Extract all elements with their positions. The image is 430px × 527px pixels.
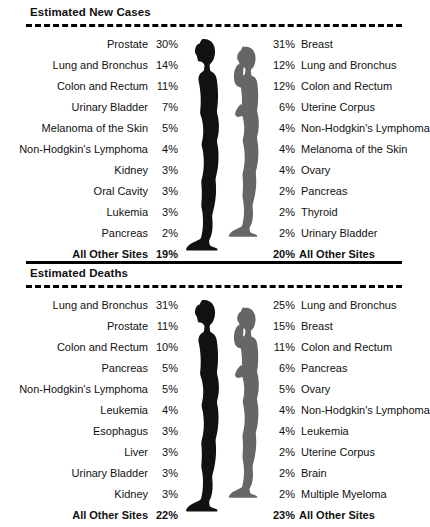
- male-site-label: Urinary Bladder: [0, 97, 148, 118]
- table-row-total: All Other Sites 22% 23% All Other Sites: [0, 505, 428, 526]
- female-site-pct: 23%: [268, 505, 295, 526]
- female-site-label: Leukemia: [301, 421, 349, 442]
- female-site-pct: 12%: [268, 76, 295, 97]
- table-row: Kidney 3% 2% Multiple Myeloma: [0, 484, 428, 505]
- male-site-label: Non-Hodgkin's Lymphoma: [0, 379, 148, 400]
- male-site-label: All Other Sites: [0, 505, 148, 526]
- female-site-pct: 4%: [268, 139, 295, 160]
- female-site-pct: 31%: [268, 34, 295, 55]
- table-row: Colon and Rectum 11% 12% Colon and Rectu…: [0, 76, 428, 97]
- female-site-pct: 6%: [268, 97, 295, 118]
- male-site-pct: 4%: [150, 400, 178, 421]
- male-site-pct: 7%: [150, 97, 178, 118]
- male-site-pct: 3%: [150, 484, 178, 505]
- table-row: Liver 3% 2% Uterine Corpus: [0, 442, 428, 463]
- male-site-label: Kidney: [0, 160, 148, 181]
- female-site-label: Non-Hodgkin's Lymphoma: [301, 400, 430, 421]
- female-site-pct: 5%: [268, 379, 295, 400]
- table-row: Leukemia 4% 4% Non-Hodgkin's Lymphoma: [0, 400, 428, 421]
- female-site-pct: 25%: [268, 295, 295, 316]
- female-site-pct: 2%: [268, 463, 295, 484]
- table-row: Esophagus 3% 4% Leukemia: [0, 421, 428, 442]
- female-site-label: Ovary: [301, 160, 330, 181]
- male-site-pct: 30%: [150, 34, 178, 55]
- female-site-label: Ovary: [301, 379, 330, 400]
- table-row: Urinary Bladder 3% 2% Brain: [0, 463, 428, 484]
- table-row: Melanoma of the Skin 5% 4% Non-Hodgkin's…: [0, 118, 428, 139]
- male-site-pct: 3%: [150, 442, 178, 463]
- female-site-pct: 2%: [268, 223, 295, 244]
- male-site-label: Lung and Bronchus: [0, 295, 148, 316]
- table-row: Pancreas 2% 2% Urinary Bladder: [0, 223, 428, 244]
- female-site-label: Lung and Bronchus: [301, 295, 396, 316]
- male-site-pct: 5%: [150, 358, 178, 379]
- male-site-pct: 2%: [150, 223, 178, 244]
- male-site-pct: 3%: [150, 202, 178, 223]
- female-site-label: Pancreas: [301, 181, 347, 202]
- male-site-pct: 3%: [150, 421, 178, 442]
- male-site-label: Liver: [0, 442, 148, 463]
- stats-rows: Lung and Bronchus 31% 25% Lung and Bronc…: [0, 295, 428, 526]
- male-site-pct: 5%: [150, 379, 178, 400]
- male-site-pct: 4%: [150, 139, 178, 160]
- male-site-label: Lung and Bronchus: [0, 55, 148, 76]
- female-site-label: Uterine Corpus: [301, 97, 375, 118]
- male-site-pct: 3%: [150, 463, 178, 484]
- female-site-pct: 11%: [268, 337, 295, 358]
- female-site-label: Colon and Rectum: [301, 337, 392, 358]
- male-site-label: Leukemia: [0, 400, 148, 421]
- male-site-label: Esophagus: [0, 421, 148, 442]
- table-row: Oral Cavity 3% 2% Pancreas: [0, 181, 428, 202]
- table-row: Non-Hodgkin's Lymphoma 5% 5% Ovary: [0, 379, 428, 400]
- panel-separator-rule: [26, 261, 402, 264]
- table-row: Pancreas 5% 6% Pancreas: [0, 358, 428, 379]
- table-row: Kidney 3% 4% Ovary: [0, 160, 428, 181]
- panel-title: Estimated New Cases: [30, 6, 151, 18]
- table-row: Non-Hodgkin's Lymphoma 4% 4% Melanoma of…: [0, 139, 428, 160]
- dashed-divider: [26, 24, 402, 27]
- male-site-pct: 11%: [150, 76, 178, 97]
- female-site-label: Pancreas: [301, 358, 347, 379]
- female-site-pct: 15%: [268, 316, 295, 337]
- male-site-label: Pancreas: [0, 358, 148, 379]
- male-site-pct: 10%: [150, 337, 178, 358]
- table-row: Colon and Rectum 10% 11% Colon and Rectu…: [0, 337, 428, 358]
- male-site-label: Oral Cavity: [0, 181, 148, 202]
- female-site-label: Melanoma of the Skin: [301, 139, 407, 160]
- male-site-label: Colon and Rectum: [0, 76, 148, 97]
- male-site-label: Melanoma of the Skin: [0, 118, 148, 139]
- male-site-label: Urinary Bladder: [0, 463, 148, 484]
- female-site-pct: 4%: [268, 160, 295, 181]
- male-site-label: Lukemia: [0, 202, 148, 223]
- table-row: Prostate 30% 31% Breast: [0, 34, 428, 55]
- male-site-pct: 11%: [150, 316, 178, 337]
- male-site-pct: 14%: [150, 55, 178, 76]
- female-site-label: Breast: [301, 316, 333, 337]
- female-site-label: Breast: [301, 34, 333, 55]
- male-site-label: Non-Hodgkin's Lymphoma: [0, 139, 148, 160]
- panel-estimated-deaths: Estimated Deaths Lung and Bronchus 31% 2…: [0, 258, 428, 527]
- female-site-label: Urinary Bladder: [301, 223, 377, 244]
- table-row: Lukemia 3% 2% Thyroid: [0, 202, 428, 223]
- female-site-label: Uterine Corpus: [301, 442, 375, 463]
- female-site-label: All Other Sites: [299, 505, 375, 526]
- female-site-pct: 2%: [268, 442, 295, 463]
- female-site-pct: 6%: [268, 358, 295, 379]
- female-site-pct: 2%: [268, 202, 295, 223]
- male-site-pct: 5%: [150, 118, 178, 139]
- table-row: Prostate 11% 15% Breast: [0, 316, 428, 337]
- female-site-pct: 2%: [268, 484, 295, 505]
- male-site-pct: 3%: [150, 160, 178, 181]
- table-row: Urinary Bladder 7% 6% Uterine Corpus: [0, 97, 428, 118]
- female-site-pct: 2%: [268, 181, 295, 202]
- female-site-pct: 4%: [268, 421, 295, 442]
- stats-rows: Prostate 30% 31% Breast Lung and Bronchu…: [0, 34, 428, 265]
- female-site-pct: 4%: [268, 400, 295, 421]
- male-site-pct: 31%: [150, 295, 178, 316]
- male-site-label: Prostate: [0, 316, 148, 337]
- female-site-label: Lung and Bronchus: [301, 55, 396, 76]
- female-site-label: Thyroid: [301, 202, 338, 223]
- female-site-label: Colon and Rectum: [301, 76, 392, 97]
- male-site-label: Pancreas: [0, 223, 148, 244]
- male-site-label: Prostate: [0, 34, 148, 55]
